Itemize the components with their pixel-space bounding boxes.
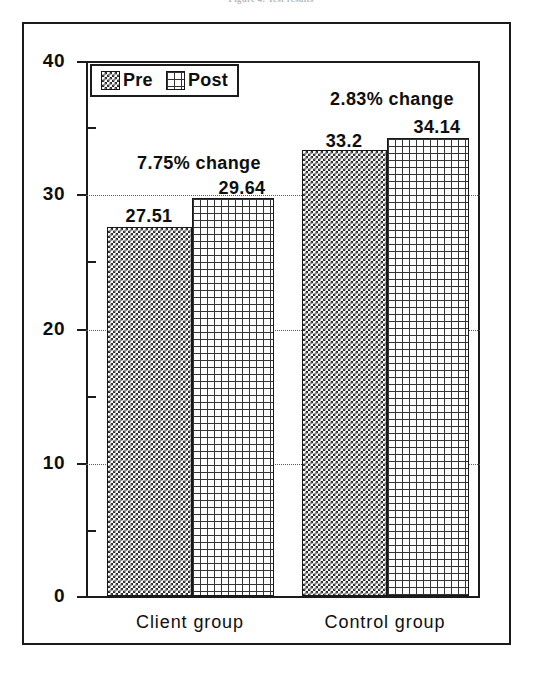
legend-swatch-post-icon xyxy=(166,71,185,90)
legend-item-post[interactable]: Post xyxy=(166,70,228,91)
y-tick-0: 0 xyxy=(77,596,86,598)
legend-item-pre[interactable]: Pre xyxy=(101,70,153,91)
change-annotation-client: 7.75% change xyxy=(137,153,261,174)
bar-control-post[interactable] xyxy=(387,138,469,596)
axis-line-bottom xyxy=(86,596,480,598)
change-annotation-control: 2.83% change xyxy=(330,89,454,110)
y-tick-label-20: 20 xyxy=(43,318,65,340)
legend-label-pre: Pre xyxy=(123,70,153,91)
bar-control-pre[interactable] xyxy=(302,150,387,596)
axis-line-top xyxy=(86,61,480,63)
bar-client-post[interactable] xyxy=(192,198,274,596)
x-category-label-control: Control group xyxy=(325,612,446,633)
y-tick-minor-35 xyxy=(88,127,96,129)
y-tick-10: 10 xyxy=(77,463,86,465)
bar-value-control-pre: 33.2 xyxy=(326,131,363,152)
chart-legend: Pre Post xyxy=(90,64,239,97)
y-tick-40: 40 xyxy=(77,61,86,63)
legend-swatch-pre-icon xyxy=(101,71,120,90)
y-tick-minor-5 xyxy=(88,530,96,532)
figure-frame: 0 10 20 30 40 27.51 29.64 33.2 34.14 xyxy=(22,22,511,645)
y-tick-20: 20 xyxy=(77,329,86,331)
figure-caption: Figure 4: Test results xyxy=(0,0,542,4)
bar-value-client-post: 29.64 xyxy=(218,178,265,199)
y-tick-minor-15 xyxy=(88,396,96,398)
y-tick-label-0: 0 xyxy=(54,585,65,607)
bar-client-pre[interactable] xyxy=(107,227,192,596)
y-tick-label-10: 10 xyxy=(43,452,65,474)
y-tick-minor-25 xyxy=(88,261,96,263)
x-category-label-client: Client group xyxy=(136,612,244,633)
bar-value-control-post: 34.14 xyxy=(413,117,460,138)
y-tick-label-40: 40 xyxy=(43,50,65,72)
plot-area: 0 10 20 30 40 27.51 29.64 33.2 34.14 xyxy=(86,61,480,598)
bar-value-client-pre: 27.51 xyxy=(125,206,172,227)
legend-label-post: Post xyxy=(188,70,228,91)
y-tick-30: 30 xyxy=(77,194,86,196)
y-tick-label-30: 30 xyxy=(43,183,65,205)
